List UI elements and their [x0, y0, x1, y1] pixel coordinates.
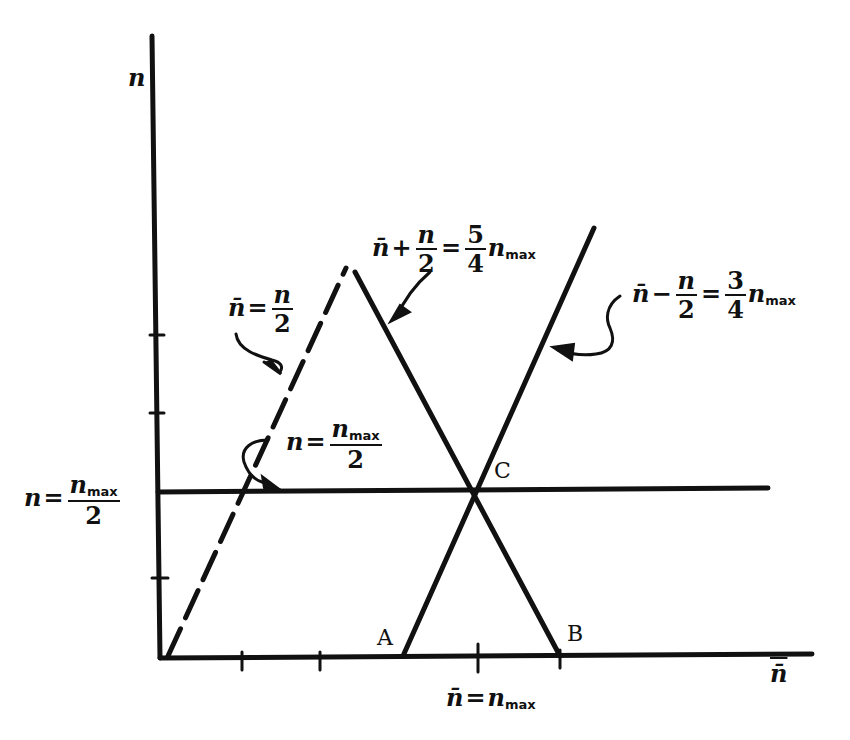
coef-num: 3	[725, 268, 746, 296]
ascending-line	[403, 228, 594, 656]
eq-op: =	[247, 293, 267, 322]
coef-num: 5	[465, 222, 486, 250]
left-op: =	[43, 483, 63, 512]
eq-den: 2	[678, 296, 695, 322]
bottom-op: =	[465, 683, 485, 712]
point-label-a: A	[377, 627, 393, 649]
label-descending-line: n̄+n2=54nmax	[372, 222, 536, 276]
label-ascending-line: n̄−n2=34nmax	[632, 268, 796, 322]
left-lhs: n	[24, 483, 41, 512]
eq-coef: 54	[465, 222, 486, 276]
left-num-n: n	[70, 470, 87, 499]
coef-den: 4	[727, 296, 744, 322]
eq-op: −	[651, 279, 671, 308]
eq-den: 2	[418, 250, 435, 276]
eq-num-sub: max	[349, 428, 380, 443]
eq-fraction: n2	[676, 268, 697, 322]
x-axis-label: n̄	[770, 662, 787, 686]
eq-op: =	[305, 427, 325, 456]
eq-num: n	[676, 268, 697, 296]
eq-rhs: n	[488, 233, 505, 262]
eq-rhs: n	[748, 279, 765, 308]
eq-equals: =	[701, 279, 721, 308]
left-axis-label: n=nmax2	[24, 472, 122, 528]
eq-den: 2	[274, 310, 291, 336]
bottom-rhs-sub: max	[505, 697, 536, 712]
eq-fraction: n2	[272, 282, 293, 336]
diagram-canvas	[0, 0, 850, 740]
eq-lhs: n̄	[372, 233, 389, 262]
eq-lhs: n̄	[228, 293, 245, 322]
eq-lhs: n	[286, 427, 303, 456]
eq-lhs: n̄	[632, 279, 649, 308]
eq-fraction: nmax2	[330, 416, 382, 472]
x-axis	[160, 654, 812, 658]
x-axis-label-text: n̄	[770, 659, 787, 688]
eq-num-n: n	[332, 414, 349, 443]
bottom-rhs: n	[488, 683, 505, 712]
eq-equals: =	[441, 233, 461, 262]
coef-den: 4	[467, 250, 484, 276]
point-label-b: B	[567, 623, 583, 645]
eq-rhs-sub: max	[765, 293, 796, 308]
descending-line	[355, 272, 560, 656]
point-label-c: C	[494, 460, 511, 482]
left-num-sub: max	[87, 484, 118, 499]
y-axis-label: n	[128, 66, 145, 90]
horizontal-line-n-half-max	[158, 488, 768, 492]
label-dashed-line: n̄=n2	[228, 282, 295, 336]
bottom-lhs: n̄	[446, 683, 463, 712]
left-fraction: nmax2	[68, 472, 120, 528]
arrowhead	[390, 305, 410, 322]
label-horizontal-line: n=nmax2	[286, 416, 384, 472]
arrowhead	[262, 476, 282, 491]
eq-num: n	[416, 222, 437, 250]
eq-fraction: n2	[416, 222, 437, 276]
eq-den: 2	[347, 446, 364, 472]
eq-op: +	[391, 233, 411, 262]
bottom-axis-label: n̄=nmax	[446, 686, 536, 711]
eq-rhs-sub: max	[505, 247, 536, 262]
y-axis	[152, 36, 160, 658]
eq-coef: 34	[725, 268, 746, 322]
eq-num: n	[272, 282, 293, 310]
eq-num: nmax	[330, 416, 382, 446]
left-den: 2	[85, 502, 102, 528]
left-num: nmax	[68, 472, 120, 502]
arrowhead	[552, 344, 574, 360]
